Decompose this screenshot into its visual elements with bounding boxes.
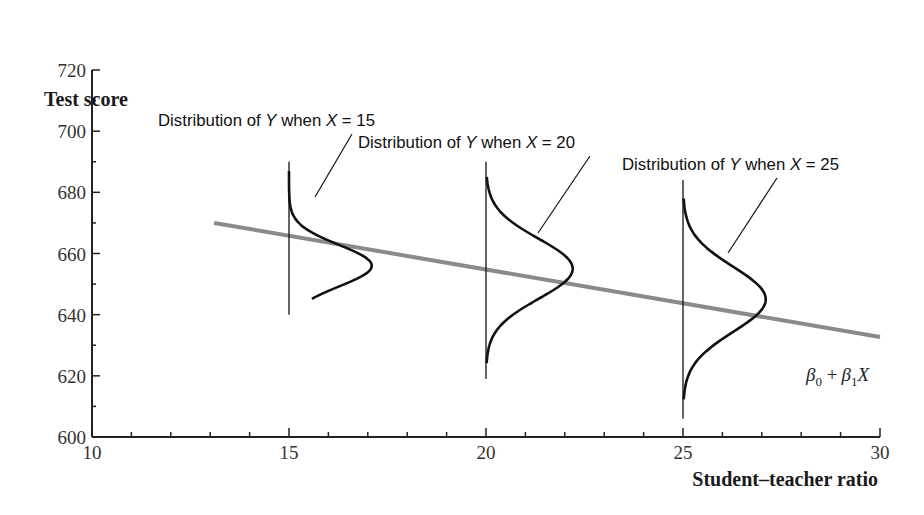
normal-density-curve <box>289 171 372 299</box>
x-tick-label: 15 <box>280 442 299 463</box>
x-tick-label: 20 <box>477 442 496 463</box>
x-tick-label: 30 <box>871 442 890 463</box>
y-tick-label: 660 <box>58 244 87 265</box>
x-tick-label: 25 <box>674 442 693 463</box>
y-axis-title: Test score <box>44 88 128 110</box>
regression-line <box>214 223 880 337</box>
distribution-label: Distribution of Y when X = 25 <box>622 155 839 174</box>
regression-line-path <box>214 223 880 337</box>
distribution-label: Distribution of Y when X = 15 <box>158 111 375 130</box>
regression-equation-label: β0 +β1X <box>805 364 870 389</box>
y-tick-label: 680 <box>58 182 87 203</box>
x-axis-title: Student–teacher ratio <box>692 468 878 490</box>
leader-line <box>728 178 777 253</box>
leader-line <box>538 156 590 233</box>
leader-line <box>315 134 352 197</box>
chart: 6006206406606807007201015202530 Distribu… <box>0 0 924 515</box>
normal-density-curve <box>684 198 766 399</box>
distributions <box>289 162 766 419</box>
y-tick-label: 620 <box>58 366 87 387</box>
x-tick-label: 10 <box>83 442 102 463</box>
y-tick-label: 720 <box>58 60 87 81</box>
distribution-label: Distribution of Y when X = 20 <box>358 133 575 152</box>
y-tick-label: 700 <box>58 121 87 142</box>
y-tick-label: 640 <box>58 305 87 326</box>
